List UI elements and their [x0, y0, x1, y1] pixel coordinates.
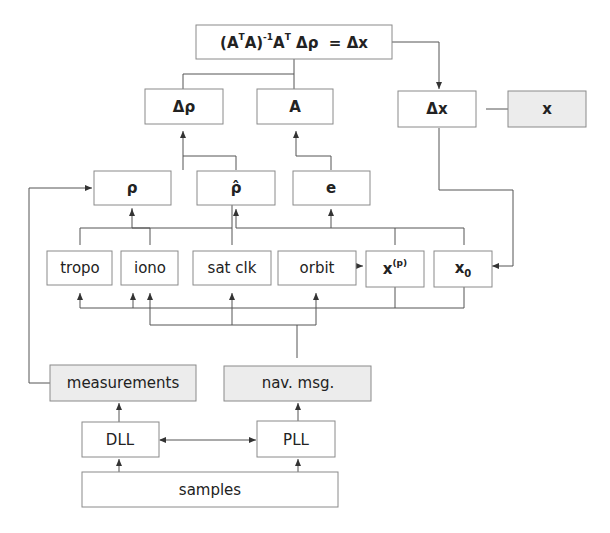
- A-label: A: [289, 98, 301, 116]
- delta-rho-label: Δρ: [173, 98, 196, 116]
- diagram-canvas: (ATA)-1AT Δρ = Δx Δρ A Δx x ρ ρ̂ e tropo…: [0, 0, 610, 533]
- measurements-node: measurements: [50, 365, 196, 401]
- e-node: e: [293, 171, 370, 205]
- sat-clk-node: sat clk: [193, 251, 271, 285]
- nav-msg-node: nav. msg.: [224, 366, 371, 401]
- samples-node: samples: [82, 472, 338, 507]
- rho-hat-node: ρ̂: [197, 171, 275, 205]
- x0-node: x0: [434, 251, 492, 287]
- iono-node: iono: [121, 251, 178, 285]
- delta-x-label: Δx: [426, 100, 448, 118]
- orbit-node: orbit: [278, 251, 356, 285]
- x-label: x: [542, 100, 552, 118]
- PLL-label: PLL: [283, 431, 309, 449]
- equation-node: (ATA)-1AT Δρ = Δx: [196, 25, 392, 59]
- tropo-node: tropo: [47, 251, 112, 285]
- e-label: e: [326, 179, 336, 197]
- tropo-label: tropo: [60, 259, 100, 277]
- rho-label: ρ: [127, 179, 138, 197]
- rho-node: ρ: [94, 171, 171, 205]
- measurements-label: measurements: [67, 374, 180, 392]
- A-node: A: [257, 89, 333, 124]
- iono-label: iono: [134, 259, 166, 277]
- DLL-node: DLL: [82, 422, 159, 457]
- DLL-label: DLL: [106, 431, 135, 449]
- orbit-label: orbit: [300, 259, 335, 277]
- delta-x-node: Δx: [398, 91, 476, 127]
- PLL-node: PLL: [257, 421, 335, 457]
- delta-rho-node: Δρ: [145, 89, 223, 124]
- rho-hat-label: ρ̂: [231, 179, 242, 197]
- samples-label: samples: [179, 481, 242, 499]
- x-p-node: x(p): [366, 251, 424, 287]
- sat-clk-label: sat clk: [208, 259, 257, 277]
- nav-msg-label: nav. msg.: [262, 374, 335, 392]
- x-node: x: [508, 91, 586, 127]
